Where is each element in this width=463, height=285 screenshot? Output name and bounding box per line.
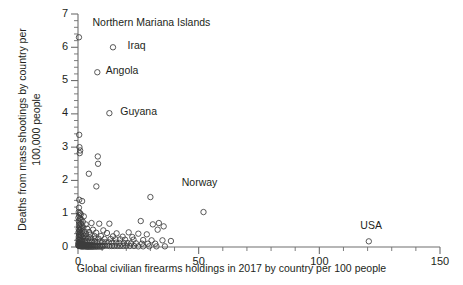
data-point	[89, 220, 94, 225]
data-point	[161, 224, 166, 229]
data-point	[110, 45, 115, 50]
data-point	[97, 221, 102, 226]
data-point	[160, 238, 165, 243]
data-point	[155, 227, 160, 232]
data-point	[76, 35, 81, 40]
data-point	[77, 132, 82, 137]
data-point	[107, 110, 112, 115]
data-point	[149, 238, 154, 243]
annotation-northern-mariana-islands: Northern Mariana Islands	[92, 16, 210, 28]
y-tick-label: 5	[44, 73, 68, 85]
data-point	[168, 238, 173, 243]
data-point	[95, 161, 100, 166]
data-point	[156, 220, 161, 225]
annotation-usa: USA	[360, 219, 382, 231]
data-point	[114, 231, 119, 236]
x-tick-label: 50	[179, 255, 219, 267]
y-tick-label: 7	[44, 7, 68, 19]
x-tick-label: 100	[299, 255, 339, 267]
y-tick-label: 0	[44, 240, 68, 252]
data-point	[104, 230, 109, 235]
data-point	[138, 218, 143, 223]
data-point	[95, 70, 100, 75]
data-point	[94, 184, 99, 189]
data-point	[93, 230, 98, 235]
annotation-iraq: Iraq	[127, 39, 145, 51]
x-tick-label: 0	[58, 255, 98, 267]
data-point	[150, 222, 155, 227]
y-tick-label: 2	[44, 173, 68, 185]
data-point	[201, 209, 206, 214]
data-point	[86, 171, 91, 176]
annotation-norway: Norway	[182, 176, 218, 188]
scatter-chart: Deaths from mass shootings by country pe…	[0, 0, 463, 285]
data-point	[107, 221, 112, 226]
x-tick-label: 150	[420, 255, 460, 267]
data-point	[366, 239, 371, 244]
data-point	[148, 194, 153, 199]
y-tick-label: 1	[44, 206, 68, 218]
annotation-angola: Angola	[106, 64, 139, 76]
data-point	[126, 230, 131, 235]
y-tick-label: 4	[44, 106, 68, 118]
annotation-guyana: Guyana	[120, 105, 157, 117]
data-point	[144, 232, 149, 237]
plot-canvas	[0, 0, 463, 285]
data-point	[140, 237, 145, 242]
y-tick-label: 6	[44, 40, 68, 52]
y-tick-label: 3	[44, 140, 68, 152]
data-point	[136, 231, 141, 236]
data-point	[95, 154, 100, 159]
data-point	[101, 228, 106, 233]
data-point	[162, 244, 167, 249]
